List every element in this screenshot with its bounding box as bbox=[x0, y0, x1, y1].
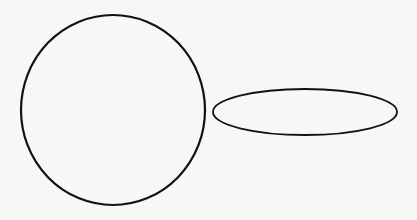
circle-shape bbox=[21, 15, 205, 205]
flat-ellipse-shape bbox=[213, 89, 397, 135]
diagram-canvas bbox=[0, 0, 417, 220]
shapes-svg bbox=[0, 0, 417, 220]
